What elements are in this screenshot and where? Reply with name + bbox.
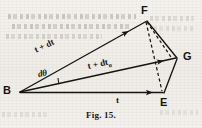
vector-label-t: t <box>116 96 119 105</box>
figure-container: B E F G t + dt t + dto dθ t Fig. 15. <box>0 0 202 128</box>
vertex-label-B: B <box>3 85 11 96</box>
figure-caption: Fig. 15. <box>0 110 202 120</box>
vertex-label-G: G <box>183 51 192 62</box>
angle-label-dtheta: dθ <box>37 68 48 78</box>
vertex-label-F: F <box>141 5 148 16</box>
vector-BF-arrowhead <box>20 32 128 93</box>
vertex-label-E: E <box>160 97 167 108</box>
edge-FG <box>147 21 177 58</box>
vector-BF <box>20 22 146 93</box>
edge-GE <box>164 59 177 93</box>
